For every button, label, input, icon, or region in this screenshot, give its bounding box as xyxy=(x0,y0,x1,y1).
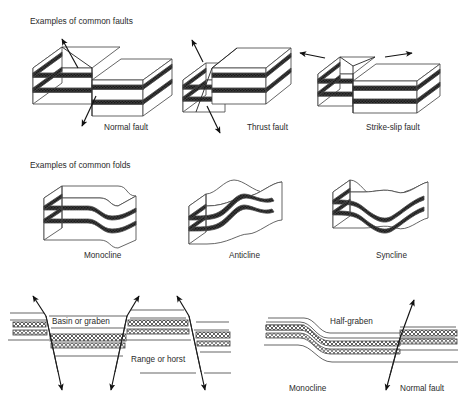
range-horst-label: Range or horst xyxy=(131,355,186,364)
normal-fault-label: Normal fault xyxy=(104,123,149,132)
monocline-section-label: Monocline xyxy=(289,384,327,393)
folds-section-heading: Examples of common folds xyxy=(30,160,131,170)
geology-structures-figure: Examples of common faults xyxy=(0,0,463,417)
anticline-fold-label: Anticline xyxy=(229,251,260,260)
basin-graben-label: Basin or graben xyxy=(52,317,110,326)
normal-fault-section-label: Normal fault xyxy=(400,384,445,393)
syncline-fold-label: Syncline xyxy=(376,251,407,260)
monocline-fold-label: Monocline xyxy=(84,251,122,260)
strike-slip-fault-label: Strike-slip fault xyxy=(366,123,420,132)
thrust-fault-label: Thrust fault xyxy=(247,123,289,132)
half-graben-label: Half-graben xyxy=(330,317,373,326)
faults-section-heading: Examples of common faults xyxy=(30,16,133,26)
